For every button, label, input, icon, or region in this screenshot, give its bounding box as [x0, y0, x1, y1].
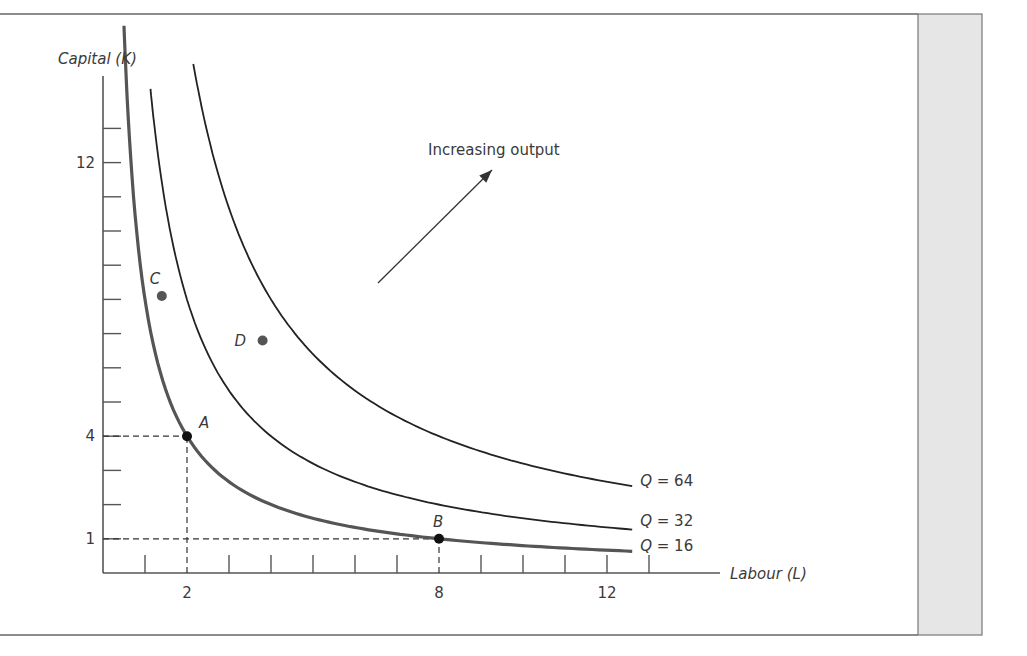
x-tick-label: 12: [597, 584, 616, 602]
side-panel: [918, 14, 982, 635]
y-tick-label: 4: [85, 427, 95, 445]
isoquant-q64: [193, 64, 632, 486]
isoquant-curves: Q = 16Q = 32Q = 64: [124, 26, 693, 555]
isoquant-q32: [151, 89, 633, 530]
x-tick-label: 8: [434, 584, 444, 602]
isoquant-chart: 14122812 Q = 16Q = 32Q = 64 ABCD Capital…: [0, 0, 1027, 656]
y-tick-label: 1: [85, 530, 95, 548]
data-points: ABCD: [150, 270, 444, 544]
point-b: [434, 534, 444, 544]
x-tick-label: 2: [182, 584, 192, 602]
isoquant-label: Q = 32: [640, 512, 693, 530]
point-c: [157, 291, 167, 301]
figure-frame: 14122812 Q = 16Q = 32Q = 64 ABCD Capital…: [0, 0, 1027, 656]
x-axis-label: Labour (L): [730, 565, 807, 583]
isoquant-label: Q = 16: [640, 537, 693, 555]
increasing-output-annotation: Increasing output: [378, 141, 560, 283]
y-tick-label: 12: [76, 154, 95, 172]
isoquant-label: Q = 64: [640, 472, 693, 490]
point-label-c: C: [150, 270, 161, 288]
annotation-arrow-line: [378, 170, 492, 283]
y-axis-label: Capital (K): [58, 50, 137, 68]
point-label-a: A: [198, 414, 209, 432]
point-label-d: D: [235, 332, 247, 350]
annotation-text: Increasing output: [428, 141, 560, 159]
point-d: [258, 335, 268, 345]
point-a: [182, 431, 192, 441]
axes: 14122812: [76, 76, 720, 602]
point-label-b: B: [433, 513, 443, 531]
